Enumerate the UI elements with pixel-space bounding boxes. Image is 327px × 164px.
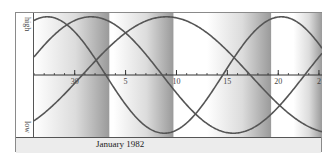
plot-area: 3051015202: [34, 13, 322, 137]
chart-canvas: 3051015202: [34, 13, 322, 137]
x-tick-label: 15: [223, 77, 231, 86]
biorhythm-chart: high low 3051015202 January 1982: [15, 12, 322, 152]
y-label-low: low: [17, 121, 32, 133]
month-strip: January 1982: [16, 137, 321, 153]
month-label: January 1982: [96, 139, 144, 149]
x-tick-label: 20: [274, 77, 282, 86]
x-tick-label: 10: [172, 77, 180, 86]
x-tick-label: 5: [124, 77, 128, 86]
x-tick-label: 30: [71, 77, 79, 86]
y-label-high: high: [17, 17, 32, 31]
x-tick-label: 2: [317, 77, 321, 86]
y-axis-labels: high low: [16, 13, 34, 137]
